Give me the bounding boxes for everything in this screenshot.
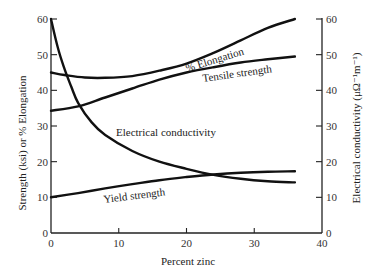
right-y-tick-label: 20 [326,156,338,168]
label-electrical-conductivity: Electrical conductivity [116,126,216,138]
right-y-tick-label: 40 [326,84,338,96]
right-y-tick-label: 60 [326,13,338,25]
curve-electrical-conductivity [51,19,295,182]
left-y-tick-label: 50 [37,49,49,61]
right-y-tick-label: 10 [326,191,338,203]
left-y-tick-label: 30 [37,120,49,132]
left-y-tick-label: 20 [37,156,49,168]
x-tick-label: 0 [48,237,54,249]
x-tick-label: 20 [181,237,193,249]
x-axis-title: Percent zinc [161,255,215,267]
right-y-tick-label: 0 [326,227,332,239]
x-tick-label: 30 [249,237,261,249]
curves [51,19,295,197]
left-y-tick-label: 60 [37,13,49,25]
right-y-tick-label: 30 [326,120,338,132]
left-y-tick-label: 0 [43,227,49,239]
right-y-tick-label: 50 [326,49,338,61]
zinc-properties-chart: 01020304001020304050600102030405060 % El… [0,0,371,280]
left-y-tick-label: 40 [37,84,49,96]
left-y-tick-label: 10 [37,191,49,203]
right-y-axis-title: Electrical conductivity (μΩ⁻¹m⁻¹) [350,52,363,203]
curve-yield-strength [51,171,295,197]
x-tick-label: 10 [113,237,125,249]
left-y-axis-title: Strength (ksi) or % Elongation [16,75,29,211]
